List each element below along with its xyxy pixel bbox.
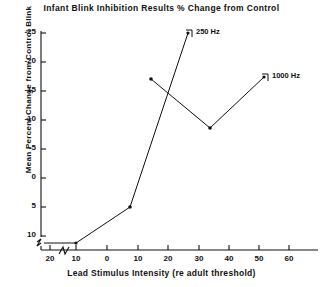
annotation-leaders	[186, 30, 268, 81]
x-tick-label: 60	[277, 254, 301, 263]
x-tick-label: 10	[64, 254, 88, 263]
x-tick-label: 0	[95, 254, 119, 263]
y-tick-label: 10	[10, 230, 36, 239]
series-label-250hz: 250 Hz	[196, 27, 220, 36]
x-tick-label: 50	[247, 254, 271, 263]
chart-figure: Infant Blink Inhibition Results % Change…	[0, 0, 323, 287]
series-1000hz	[149, 75, 265, 129]
plot-area	[0, 0, 323, 287]
x-tick-label: 20	[156, 254, 180, 263]
y-tick-label: 0	[10, 172, 36, 181]
x-tick-label: 30	[187, 254, 211, 263]
series-250hz	[44, 31, 190, 244]
series-label-1000hz: 1000 Hz	[272, 71, 300, 80]
y-tick-label: -25	[10, 27, 36, 36]
y-tick-label: -5	[10, 143, 36, 152]
y-tick-label: 5	[10, 201, 36, 210]
x-tick-label: 20	[38, 254, 62, 263]
y-tick-label: -15	[10, 85, 36, 94]
y-tick-label: -10	[10, 114, 36, 123]
y-tick-label: -20	[10, 56, 36, 65]
x-tick-label: 10	[126, 254, 150, 263]
x-tick-label: 40	[217, 254, 241, 263]
